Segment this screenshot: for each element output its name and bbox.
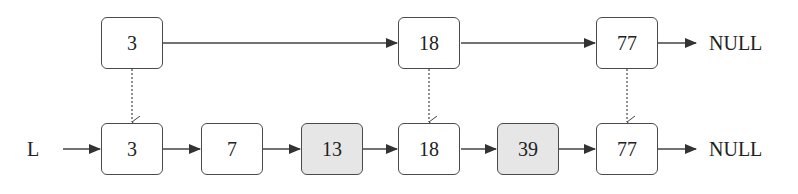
- down-links: [132, 69, 627, 122]
- base-node-77: 77: [596, 123, 658, 175]
- upper-null-label: NULL: [709, 33, 762, 53]
- base-node-39-shaded: 39: [497, 123, 559, 175]
- base-node-18: 18: [398, 123, 460, 175]
- upper-node-3: 3: [101, 17, 163, 69]
- node-value: 18: [419, 138, 439, 161]
- node-value: 39: [518, 138, 538, 161]
- node-value: 77: [617, 32, 637, 55]
- base-null-label: NULL: [709, 139, 762, 159]
- node-value: 18: [419, 32, 439, 55]
- base-node-7: 7: [201, 123, 263, 175]
- node-value: 3: [127, 138, 137, 161]
- skip-list-diagram: 3 18 77 NULL L 3 7 13 18 39 77 NULL: [0, 0, 798, 194]
- upper-node-18: 18: [398, 17, 460, 69]
- node-value: 3: [127, 32, 137, 55]
- node-value: 7: [227, 138, 237, 161]
- base-node-3: 3: [101, 123, 163, 175]
- base-node-13-shaded: 13: [301, 123, 363, 175]
- node-value: 77: [617, 138, 637, 161]
- node-value: 13: [322, 138, 342, 161]
- upper-node-77: 77: [596, 17, 658, 69]
- list-head-label: L: [27, 139, 39, 159]
